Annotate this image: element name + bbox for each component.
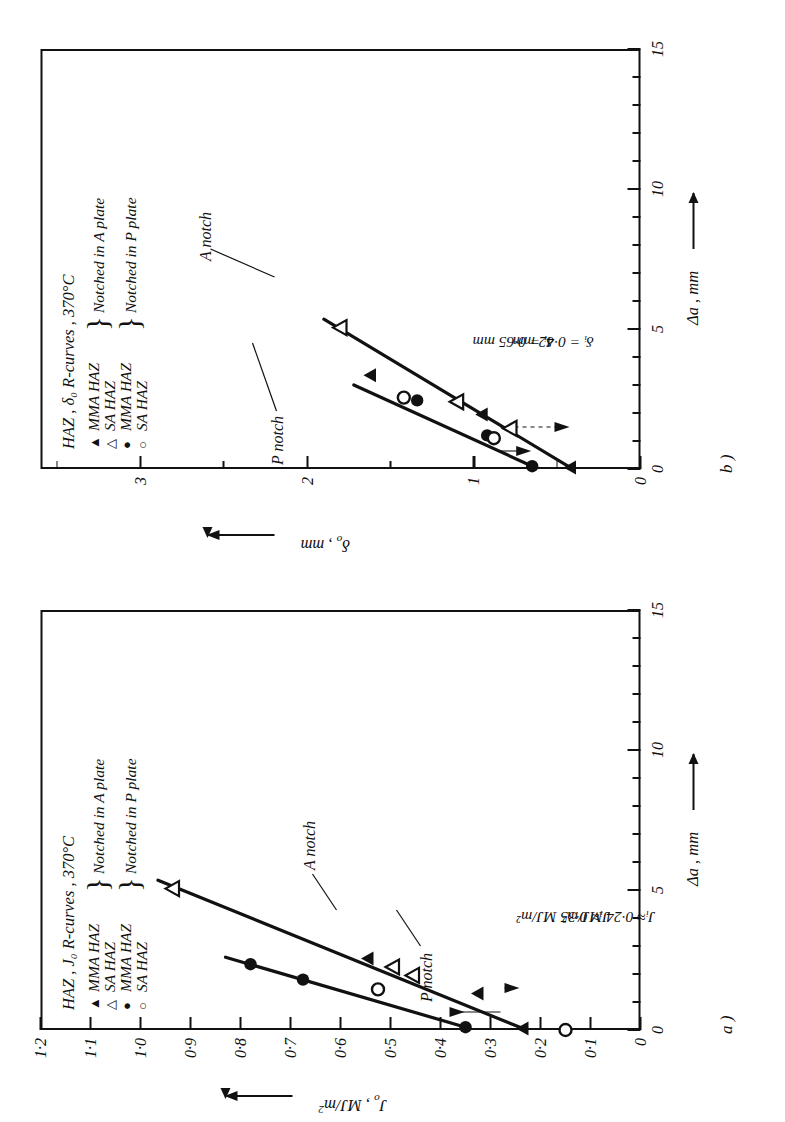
x-axis-arrow-b: [692, 193, 694, 249]
annotation-ji-024: Jᵢ≈ 0·24 MJ/m²: [562, 908, 655, 926]
y-axis-title-a: Jo , MJ/m2: [318, 1093, 387, 1116]
x-axis-title-b: Δa , mm: [682, 271, 702, 325]
legend-label: MMA HAZ: [116, 924, 134, 992]
panel-label-b: b ): [716, 455, 736, 473]
data-point: [503, 421, 517, 436]
brace-icon: }: [113, 878, 143, 892]
legend-label: MMA HAZ: [84, 363, 102, 431]
legend-title-a: HAZ , J₀ R-curves , 370°C: [58, 760, 78, 1010]
legend-label: MMA HAZ: [84, 924, 102, 992]
legend-label: MMA HAZ: [116, 363, 134, 431]
curve-label-p-notch: P notch: [268, 416, 286, 465]
panel-b: 0510150123 HAZ , δ₀ R-curves , 370°C ▲ M…: [0, 0, 785, 561]
open-circle-icon: ○: [135, 992, 148, 1010]
data-point: [372, 983, 384, 995]
data-point: [296, 973, 308, 985]
legend-label: SA HAZ: [100, 942, 118, 992]
fit-line: [353, 385, 531, 466]
legend-group-label: Notched in A plate: [89, 198, 107, 313]
data-point: [333, 320, 347, 335]
filled-circle-icon: ●: [119, 992, 132, 1010]
curve-label-p-notch: P notch: [417, 953, 435, 1002]
data-point: [459, 1021, 471, 1033]
data-point: [525, 460, 537, 472]
leader-line: [396, 910, 420, 946]
data-point: [363, 368, 376, 382]
brace-icon: }: [113, 317, 143, 331]
x-axis-arrow-a: [692, 754, 694, 810]
legend-label: SA HAZ: [132, 381, 150, 431]
y-axis-title-b: δo , mm: [300, 534, 350, 555]
legend-group-label: Notched in P plate: [121, 197, 139, 313]
filled-triangle-icon: ▲: [87, 431, 100, 449]
open-triangle-icon: △: [103, 992, 116, 1010]
curve-label-a-notch: A notch: [300, 821, 318, 870]
data-point: [559, 1024, 571, 1036]
fit-line: [158, 880, 523, 1028]
data-point: [516, 1022, 529, 1036]
annotation-delta-042: δᵢ = 0·42 mm: [512, 333, 593, 351]
y-axis-arrow-a: [224, 1096, 284, 1098]
data-point: [487, 432, 499, 444]
leader-line: [312, 874, 336, 910]
data-point: [410, 394, 422, 406]
leader-line: [252, 343, 276, 411]
open-circle-icon: ○: [135, 431, 148, 449]
leader-line: [210, 249, 274, 277]
y-axis-arrow-b: [206, 535, 266, 537]
panel-a: 05101500·10·20·30·40·50·60·70·80·91·01·1…: [0, 561, 785, 1122]
data-point: [471, 987, 484, 1001]
figure-canvas: 05101500·10·20·30·40·50·60·70·80·91·01·1…: [0, 0, 785, 1122]
curve-label-a-notch: A notch: [196, 212, 214, 261]
legend-label: SA HAZ: [100, 381, 118, 431]
x-axis-title-a: Δa , mm: [682, 832, 702, 886]
legend-group-label: Notched in A plate: [89, 759, 107, 874]
legend-group-label: Notched in P plate: [121, 758, 139, 874]
legend-label: SA HAZ: [132, 942, 150, 992]
legend-a: HAZ , J₀ R-curves , 370°C ▲ MMA HAZ △ SA…: [58, 760, 149, 1010]
panel-label-a: a ): [716, 1016, 736, 1034]
data-point: [397, 392, 409, 404]
legend-title-b: HAZ , δ₀ R-curves , 370°C: [58, 199, 78, 449]
brace-icon: }: [81, 317, 111, 331]
brace-icon: }: [81, 878, 111, 892]
open-triangle-icon: △: [103, 431, 116, 449]
initiation-marker: [500, 983, 519, 993]
legend-b: HAZ , δ₀ R-curves , 370°C ▲ MMA HAZ △ SA…: [58, 199, 149, 449]
filled-triangle-icon: ▲: [87, 992, 100, 1010]
filled-circle-icon: ●: [119, 431, 132, 449]
data-point: [244, 958, 256, 970]
